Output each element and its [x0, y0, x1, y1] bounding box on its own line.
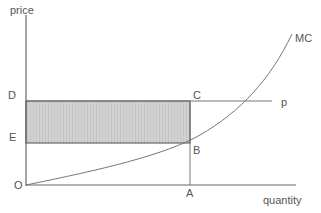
point-b-label: B: [193, 144, 200, 156]
mc-label: MC: [295, 32, 312, 44]
point-a-label: A: [186, 187, 193, 199]
point-e-label: E: [9, 131, 16, 143]
point-d-label: D: [8, 89, 16, 101]
price-line-label: p: [281, 96, 287, 108]
point-c-label: C: [193, 89, 201, 101]
origin-label: O: [14, 179, 23, 191]
x-axis-label: quantity: [263, 194, 302, 206]
y-axis-label: price: [10, 4, 34, 16]
diagram-canvas: [0, 0, 321, 213]
profit-rectangle: [26, 101, 190, 143]
